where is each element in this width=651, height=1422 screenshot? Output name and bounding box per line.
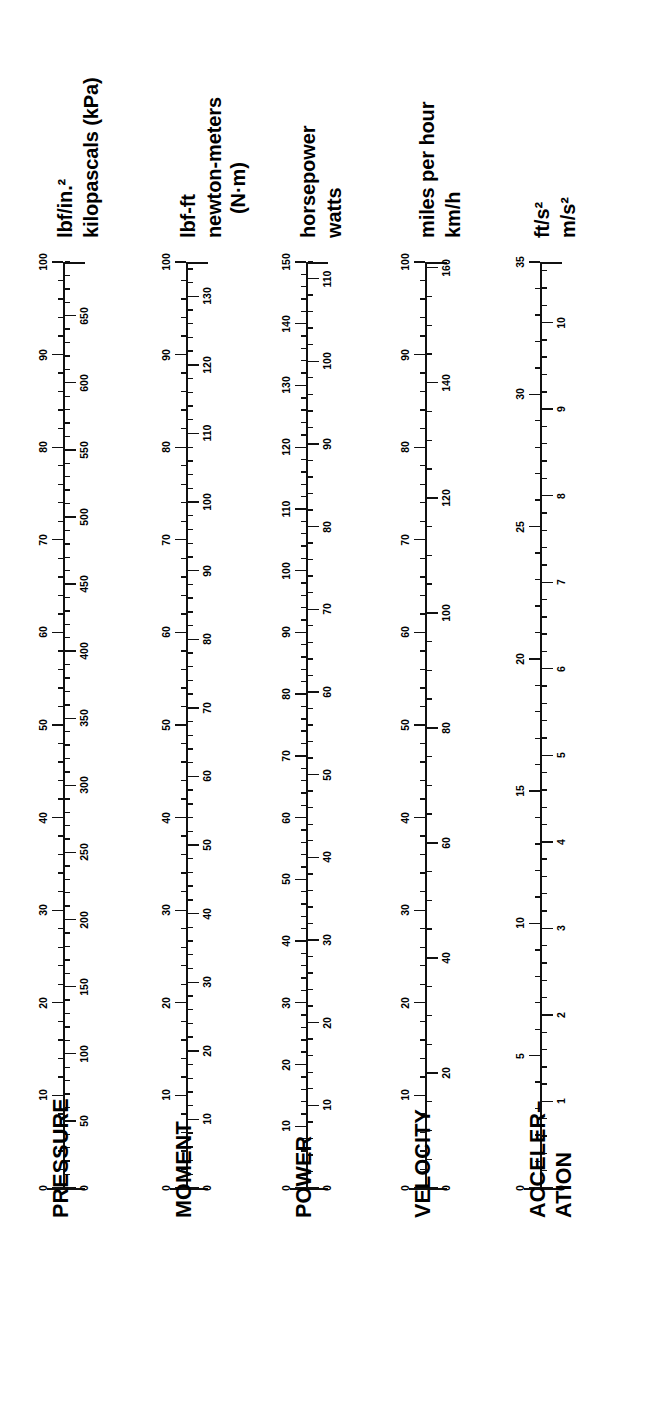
right-tick-label: 1 xyxy=(556,1099,567,1105)
major-tick xyxy=(542,322,553,323)
minor-tick xyxy=(542,305,548,306)
right-tick-label: 4 xyxy=(556,839,567,845)
minor-tick xyxy=(542,374,548,375)
minor-tick xyxy=(535,817,541,818)
minor-tick xyxy=(535,288,541,289)
minor-tick xyxy=(542,616,548,617)
right-tick-label: 5 xyxy=(556,752,567,758)
ruler-spine xyxy=(540,262,542,1190)
major-tick xyxy=(529,1055,540,1056)
minor-tick xyxy=(542,270,548,271)
major-tick xyxy=(529,658,540,659)
unit-label-left: ft/s² xyxy=(532,202,552,238)
major-tick xyxy=(542,408,553,409)
minor-tick xyxy=(542,980,548,981)
left-tick-label: 30 xyxy=(515,388,526,400)
right-tick-label: 7 xyxy=(556,579,567,585)
left-tick-label: 10 xyxy=(515,918,526,930)
right-tick-label: 6 xyxy=(556,666,567,672)
left-tick-label: 20 xyxy=(515,653,526,665)
scale-group-acceleration: 05101520253035012345678910ft/s²m/s²ACCEL… xyxy=(0,0,651,1422)
right-tick-label: 8 xyxy=(556,493,567,499)
minor-tick xyxy=(542,685,548,686)
minor-tick xyxy=(535,1029,541,1030)
major-tick xyxy=(542,495,553,496)
minor-tick xyxy=(542,530,548,531)
right-tick-label: 2 xyxy=(556,1012,567,1018)
minor-tick xyxy=(542,287,548,288)
unit-label-right: m/s² xyxy=(558,197,578,238)
minor-tick xyxy=(535,1081,541,1082)
minor-tick xyxy=(535,632,541,633)
minor-tick xyxy=(542,1032,548,1033)
minor-tick xyxy=(535,738,541,739)
minor-tick xyxy=(542,564,548,565)
minor-tick xyxy=(542,599,548,600)
minor-tick xyxy=(542,1049,548,1050)
major-tick xyxy=(529,526,540,527)
major-tick xyxy=(542,928,553,929)
category-label-line2: ATION xyxy=(554,1152,576,1218)
minor-tick xyxy=(535,949,541,950)
minor-tick xyxy=(542,893,548,894)
minor-tick xyxy=(535,976,541,977)
left-tick-label: 35 xyxy=(515,256,526,268)
minor-tick xyxy=(542,651,548,652)
minor-tick xyxy=(542,910,548,911)
major-tick xyxy=(542,582,553,583)
minor-tick xyxy=(542,824,548,825)
major-tick xyxy=(529,261,540,262)
minor-tick xyxy=(542,703,548,704)
right-tick-label: 9 xyxy=(556,406,567,412)
minor-tick xyxy=(535,579,541,580)
major-tick xyxy=(542,755,553,756)
minor-tick xyxy=(535,605,541,606)
minor-tick xyxy=(535,843,541,844)
minor-tick xyxy=(542,720,548,721)
minor-tick xyxy=(542,426,548,427)
minor-tick xyxy=(542,512,548,513)
right-tick-label: 3 xyxy=(556,925,567,931)
minor-tick xyxy=(542,789,548,790)
major-tick xyxy=(529,790,540,791)
minor-tick xyxy=(542,945,548,946)
major-tick xyxy=(529,394,540,395)
major-tick xyxy=(542,841,553,842)
category-label-line1: ACCELER– xyxy=(528,1101,550,1218)
major-tick xyxy=(542,1014,553,1015)
minor-tick xyxy=(542,391,548,392)
minor-tick xyxy=(542,478,548,479)
minor-tick xyxy=(542,443,548,444)
minor-tick xyxy=(535,473,541,474)
minor-tick xyxy=(535,420,541,421)
minor-tick xyxy=(535,367,541,368)
minor-tick xyxy=(542,858,548,859)
minor-tick xyxy=(542,339,548,340)
ruler-endcap-top xyxy=(540,262,562,264)
minor-tick xyxy=(535,499,541,500)
minor-tick xyxy=(535,1002,541,1003)
minor-tick xyxy=(542,997,548,998)
minor-tick xyxy=(542,547,548,548)
minor-tick xyxy=(542,807,548,808)
minor-tick xyxy=(542,876,548,877)
minor-tick xyxy=(542,1083,548,1084)
minor-tick xyxy=(535,870,541,871)
major-tick xyxy=(542,668,553,669)
conversion-scales-sheet: 0102030405060708090100050100150200250300… xyxy=(0,0,651,1422)
minor-tick xyxy=(535,314,541,315)
minor-tick xyxy=(542,737,548,738)
left-tick-label: 25 xyxy=(515,521,526,533)
minor-tick xyxy=(535,896,541,897)
minor-tick xyxy=(535,341,541,342)
minor-tick xyxy=(535,552,541,553)
minor-tick xyxy=(542,1066,548,1067)
right-tick-label: 10 xyxy=(556,317,567,329)
minor-tick xyxy=(535,764,541,765)
minor-tick xyxy=(542,356,548,357)
left-tick-label: 5 xyxy=(515,1053,526,1059)
minor-tick xyxy=(542,772,548,773)
minor-tick xyxy=(542,633,548,634)
left-tick-label: 0 xyxy=(515,1185,526,1191)
minor-tick xyxy=(535,711,541,712)
